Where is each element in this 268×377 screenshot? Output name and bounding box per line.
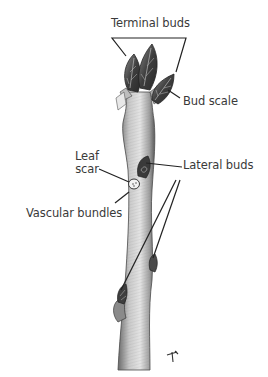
artist-signature [167, 351, 178, 362]
label-terminal-buds: Terminal buds [111, 17, 190, 30]
vascular-bundle-dot [132, 183, 134, 185]
bud-scale-leader [168, 90, 180, 98]
vascular-bundle-dot [133, 185, 135, 187]
label-lateral-buds: Lateral buds [183, 159, 253, 172]
vascular-bundle-dot [135, 182, 137, 184]
label-bud-scale: Bud scale [183, 95, 238, 108]
label-leaf-scar-line2: scar [67, 163, 107, 176]
stem [114, 86, 161, 370]
label-leaf-scar: Leaf scar [67, 150, 107, 176]
label-vascular-bundles: Vascular bundles [26, 207, 122, 220]
twig-illustration [0, 0, 268, 377]
vascular-bundles-leader [115, 192, 129, 203]
leaf-scar [129, 179, 140, 189]
twig-diagram: Terminal buds Bud scale Leaf scar Latera… [0, 0, 268, 377]
